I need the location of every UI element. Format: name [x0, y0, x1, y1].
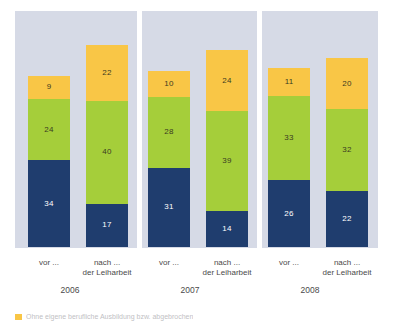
bar-segment-green: 32	[326, 109, 368, 191]
bar-segment-navy: 34	[28, 160, 70, 247]
bar-value-label: 22	[342, 215, 351, 223]
bar-segment-yellow: 10	[148, 71, 190, 97]
chart-legend: Ohne eigene berufliche Ausbildung bzw. a…	[15, 313, 193, 323]
bar-segment-yellow: 9	[28, 76, 70, 99]
x-tick-2008-nach: nach ... der Leiharbeit	[312, 258, 382, 278]
bar-segment-green: 39	[206, 111, 248, 211]
x-tick-line2: der Leiharbeit	[192, 268, 262, 278]
bar-value-label: 24	[44, 126, 53, 134]
stacked-bar-2006-nach[interactable]: 22 40 17	[86, 45, 128, 247]
x-tick-2006-nach: nach ... der Leiharbeit	[72, 258, 142, 278]
bar-segment-yellow: 22	[86, 45, 128, 101]
bar-value-label: 40	[102, 148, 111, 156]
stacked-bar-2006-vor[interactable]: 9 24 34	[28, 76, 70, 247]
x-tick-line2: der Leiharbeit	[312, 268, 382, 278]
bar-segment-green: 24	[28, 99, 70, 160]
x-tick-2007-vor: vor ...	[139, 258, 199, 268]
panel-divider-2007-2008	[257, 11, 262, 248]
bar-value-label: 9	[47, 83, 52, 91]
bar-segment-yellow: 11	[268, 68, 310, 96]
bar-value-label: 24	[222, 77, 231, 85]
bar-value-label: 11	[285, 78, 294, 86]
bar-segment-navy: 14	[206, 211, 248, 247]
bar-segment-yellow: 20	[326, 58, 368, 109]
panel-divider-2006-2007	[137, 11, 142, 248]
chart-figure: 9 24 34 22 40 17 10 28 31 24	[0, 0, 394, 323]
bar-segment-navy: 26	[268, 180, 310, 247]
x-tick-line1: vor ...	[139, 258, 199, 268]
bar-value-label: 34	[44, 200, 53, 208]
bar-segment-green: 28	[148, 97, 190, 168]
x-tick-line1: nach ...	[312, 258, 382, 268]
x-tick-line1: vor ...	[19, 258, 79, 268]
bar-value-label: 32	[342, 146, 351, 154]
legend-label: Ohne eigene berufliche Ausbildung bzw. a…	[26, 313, 193, 321]
x-tick-2007-nach: nach ... der Leiharbeit	[192, 258, 262, 278]
bar-value-label: 10	[164, 80, 173, 88]
x-tick-2006-vor: vor ...	[19, 258, 79, 268]
stacked-bar-2007-vor[interactable]: 10 28 31	[148, 71, 190, 247]
year-label-2008: 2008	[285, 285, 335, 295]
bar-value-label: 14	[222, 225, 231, 233]
x-tick-line2: der Leiharbeit	[72, 268, 142, 278]
year-label-2007: 2007	[165, 285, 215, 295]
bar-segment-green: 33	[268, 96, 310, 180]
bar-value-label: 22	[102, 69, 111, 77]
x-tick-line1: nach ...	[72, 258, 142, 268]
x-tick-line1: vor ...	[259, 258, 319, 268]
stacked-bar-2007-nach[interactable]: 24 39 14	[206, 50, 248, 247]
bar-value-label: 28	[164, 128, 173, 136]
stacked-bar-2008-vor[interactable]: 11 33 26	[268, 68, 310, 247]
year-label-2006: 2006	[45, 285, 95, 295]
bar-segment-yellow: 24	[206, 50, 248, 111]
bar-value-label: 26	[284, 210, 293, 218]
x-tick-line1: nach ...	[192, 258, 262, 268]
bar-value-label: 31	[164, 203, 173, 211]
x-tick-2008-vor: vor ...	[259, 258, 319, 268]
bar-segment-green: 40	[86, 101, 128, 203]
bar-value-label: 39	[222, 157, 231, 165]
bar-value-label: 17	[102, 221, 111, 229]
bar-segment-navy: 17	[86, 204, 128, 247]
legend-swatch-yellow	[15, 314, 22, 320]
bar-segment-navy: 22	[326, 191, 368, 247]
bar-value-label: 20	[342, 80, 351, 88]
bar-value-label: 33	[284, 134, 293, 142]
bar-segment-navy: 31	[148, 168, 190, 247]
stacked-bar-2008-nach[interactable]: 20 32 22	[326, 58, 368, 247]
